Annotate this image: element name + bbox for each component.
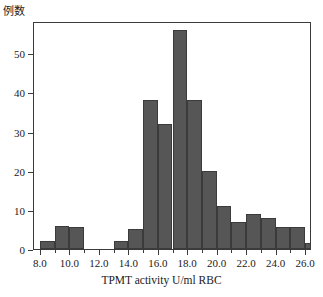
y-axis-tick-label: 0 [20, 244, 26, 256]
x-axis-tick-label: 20.0 [207, 257, 226, 269]
x-axis-tick [217, 250, 218, 255]
y-axis-tick [28, 250, 33, 251]
histogram-bar [305, 243, 311, 249]
x-axis-tick-label: 22.0 [237, 257, 256, 269]
histogram-figure: 例数 01020304050 8.010.012.014.016.018.020… [0, 0, 323, 297]
histogram-bar [187, 100, 202, 249]
x-axis-tick-label: 10.0 [60, 257, 79, 269]
histogram-bar [231, 222, 246, 249]
y-axis-label: 例数 [3, 2, 25, 18]
x-axis-tick-label: 26.0 [295, 257, 314, 269]
histogram-bar [276, 227, 291, 249]
x-axis-tick [158, 250, 159, 255]
x-axis-tick-label: 16.0 [148, 257, 167, 269]
x-axis-tick [246, 250, 247, 255]
x-axis-minor-tick [261, 250, 262, 253]
x-axis-tick [69, 250, 70, 255]
x-axis-label: TPMT activity U/ml RBC [0, 274, 323, 286]
x-axis-minor-tick [231, 250, 232, 253]
x-axis-tick [40, 250, 41, 255]
histogram-bar [128, 229, 143, 249]
histogram-bar [69, 227, 84, 249]
y-axis-tick-label: 30 [14, 127, 25, 139]
histogram-bar [55, 226, 70, 249]
histogram-bar [40, 241, 55, 249]
x-axis-tick-label: 12.0 [89, 257, 108, 269]
x-axis-tick [305, 250, 306, 255]
x-axis-tick [276, 250, 277, 255]
y-axis-tick [28, 93, 33, 94]
x-axis-tick-label: 14.0 [119, 257, 138, 269]
histogram-bar [173, 30, 188, 249]
histogram-bar [158, 124, 173, 249]
y-axis-tick [28, 133, 33, 134]
x-axis-minor-tick [84, 250, 85, 253]
histogram-bars [34, 22, 311, 249]
y-axis-tick-label: 50 [14, 48, 25, 60]
plot-area: 01020304050 8.010.012.014.016.018.020.02… [33, 22, 311, 250]
y-axis-tick-label: 10 [14, 205, 25, 217]
y-axis-tick-label: 40 [14, 87, 25, 99]
x-axis-minor-tick [114, 250, 115, 253]
x-axis-tick-label: 18.0 [178, 257, 197, 269]
x-axis-minor-tick [173, 250, 174, 253]
x-axis-minor-tick [290, 250, 291, 253]
x-axis-tick-label: 24.0 [266, 257, 285, 269]
x-axis-tick [128, 250, 129, 255]
histogram-bar [246, 214, 261, 249]
x-axis-tick-label: 8.0 [33, 257, 47, 269]
y-axis-tick [28, 54, 33, 55]
x-axis-minor-tick [202, 250, 203, 253]
histogram-bar [261, 218, 276, 249]
y-axis-tick [28, 172, 33, 173]
histogram-bar [217, 206, 232, 249]
histogram-bar [202, 171, 217, 249]
y-axis-tick-label: 20 [14, 166, 25, 178]
x-axis-minor-tick [55, 250, 56, 253]
histogram-bar [143, 100, 158, 249]
x-axis-tick [99, 250, 100, 255]
histogram-bar [114, 241, 129, 249]
histogram-bar [290, 227, 305, 249]
x-axis-tick [187, 250, 188, 255]
x-axis-minor-tick [143, 250, 144, 253]
y-axis-tick [28, 211, 33, 212]
